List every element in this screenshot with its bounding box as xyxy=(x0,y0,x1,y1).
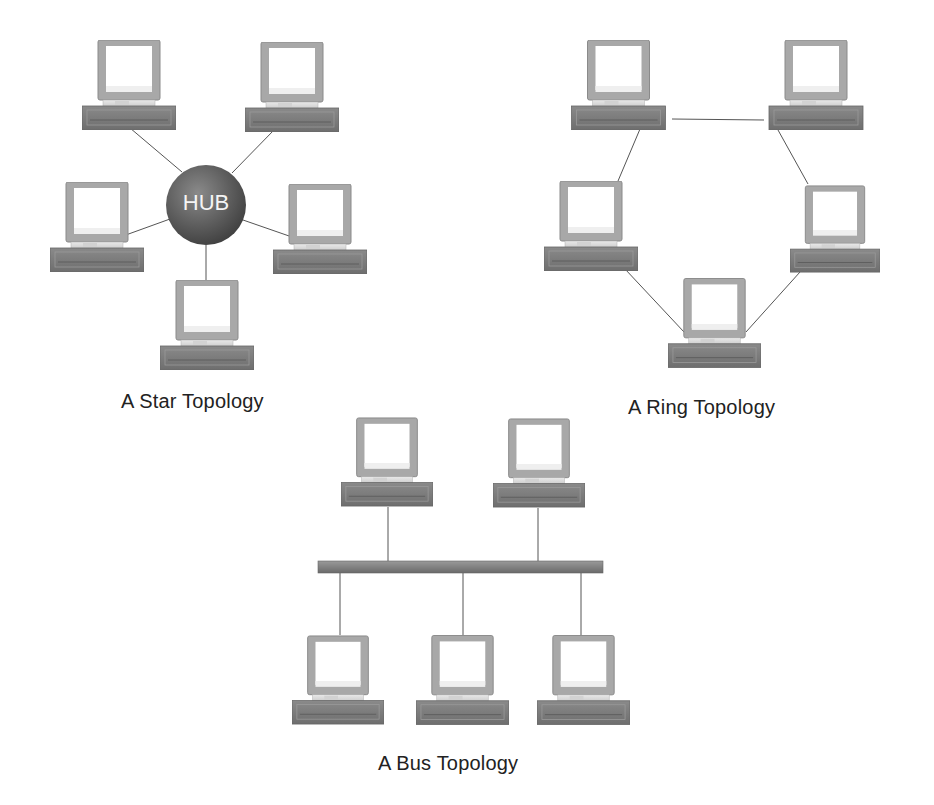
computer-bus-bottom-center xyxy=(416,635,509,724)
link-ring-right-to-bottom xyxy=(746,272,800,332)
link-star-top-right xyxy=(232,130,274,173)
link-star-left xyxy=(123,219,170,236)
star-topology-caption: A Star Topology xyxy=(121,390,264,413)
hub-label: HUB xyxy=(166,190,246,216)
computer-bus-top-right xyxy=(493,419,585,507)
computer-star-top-right xyxy=(245,42,339,132)
computer-ring-left xyxy=(544,181,638,271)
link-ring-top xyxy=(672,119,764,120)
link-star-top-left xyxy=(130,128,182,172)
link-star-right xyxy=(243,220,292,237)
bus-backbone xyxy=(318,561,603,573)
bus-topology xyxy=(292,418,630,725)
computer-ring-bottom xyxy=(668,278,761,367)
computer-bus-bottom-right xyxy=(537,635,630,724)
computer-ring-top-right xyxy=(769,40,863,130)
computer-star-left xyxy=(50,182,144,272)
computer-bus-top-left xyxy=(341,418,433,506)
computer-star-bottom xyxy=(160,280,254,370)
link-ring-left-to-bottom xyxy=(625,269,684,332)
computer-ring-right xyxy=(790,186,880,272)
computer-star-top-left xyxy=(82,40,176,130)
computer-ring-top-left xyxy=(572,40,666,130)
ring-topology-caption: A Ring Topology xyxy=(628,396,775,419)
bus-topology-caption: A Bus Topology xyxy=(378,752,518,775)
link-ring-top-left-to-left xyxy=(618,129,640,181)
link-ring-top-right-to-right xyxy=(778,130,808,184)
ring-topology xyxy=(544,40,880,368)
computer-star-right xyxy=(273,184,367,274)
computer-bus-bottom-left xyxy=(292,636,384,724)
